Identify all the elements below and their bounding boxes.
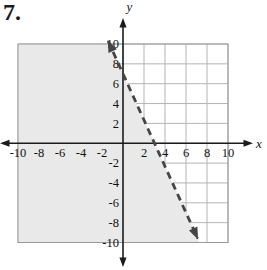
y-tick-label: -2 <box>109 156 119 170</box>
y-tick-label: -8 <box>109 216 119 230</box>
x-tick-label: 8 <box>204 146 210 160</box>
x-tick-label: -6 <box>55 146 65 160</box>
y-tick-label: 2 <box>113 117 119 131</box>
y-tick-label: 6 <box>113 77 119 91</box>
x-tick-label: -10 <box>10 146 27 160</box>
inequality-graph: -10-8-6-4-2246810-10-8-6-4-2246810xy <box>0 0 267 270</box>
y-tick-label: -6 <box>109 196 119 210</box>
x-tick-label: 6 <box>183 146 189 160</box>
x-tick-label: -8 <box>34 146 44 160</box>
x-tick-label: -4 <box>76 146 87 160</box>
x-tick-label: -2 <box>97 146 107 160</box>
x-tick-label: 4 <box>162 146 169 160</box>
y-tick-label: -10 <box>102 236 119 250</box>
x-axis-left-arrow-icon <box>0 140 10 147</box>
y-tick-label: -4 <box>109 176 120 190</box>
y-axis-down-arrow-icon <box>119 258 126 268</box>
x-tick-label: 2 <box>141 146 147 160</box>
x-tick-label: 10 <box>222 146 235 160</box>
y-tick-label: 4 <box>113 97 120 111</box>
y-axis-label: y <box>125 0 133 14</box>
x-axis-label: x <box>255 136 262 151</box>
textbook-figure: 7. -10-8-6-4-2246810-10-8-6-4-2246810xy <box>0 0 267 270</box>
x-axis-right-arrow-icon <box>244 140 254 147</box>
y-axis-up-arrow-icon <box>119 18 126 28</box>
